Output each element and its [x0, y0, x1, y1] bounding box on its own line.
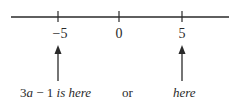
tick-label-0: 0 [116, 27, 123, 41]
connector-text: or [122, 86, 133, 100]
arrow-up-icon-right [179, 45, 186, 81]
tick-label-5: 5 [179, 27, 186, 41]
tick-label-minus-5: −5 [53, 27, 68, 41]
arrow-up-icon-left [55, 45, 62, 81]
left-annotation-suffix: is here [57, 85, 92, 100]
right-annotation: here [173, 86, 196, 100]
left-annotation-mid: − 1 [33, 85, 57, 100]
left-annotation: 3a − 1 is here [20, 86, 91, 100]
